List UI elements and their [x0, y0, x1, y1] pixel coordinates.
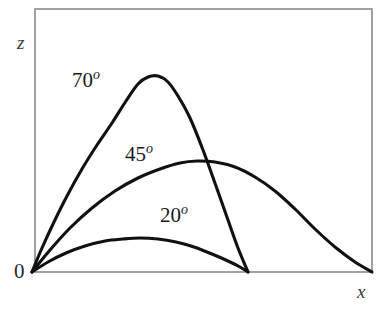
curve-label-20deg-value: 20 [160, 203, 181, 227]
degree-symbol-icon: o [93, 67, 100, 82]
x-axis-label: x [357, 282, 365, 301]
plot-frame-border [35, 9, 372, 272]
curve-label-20deg: 20o [160, 203, 188, 226]
degree-symbol-icon: o [181, 202, 188, 217]
curve-label-45deg-value: 45 [125, 142, 146, 166]
curve-label-70deg-value: 70 [72, 68, 93, 92]
degree-symbol-icon: o [146, 141, 153, 156]
curve-label-45deg: 45o [125, 142, 153, 165]
trajectory-curve-70deg [32, 76, 248, 272]
trajectory-curve-45deg [32, 161, 372, 272]
projectile-trajectory-figure: z x 0 70o 45o 20o [0, 0, 386, 311]
plot-canvas [0, 0, 386, 311]
z-axis-label: z [17, 33, 24, 52]
trajectory-curve-20deg [32, 238, 248, 272]
curve-label-70deg: 70o [72, 68, 100, 91]
origin-label: 0 [14, 261, 25, 282]
